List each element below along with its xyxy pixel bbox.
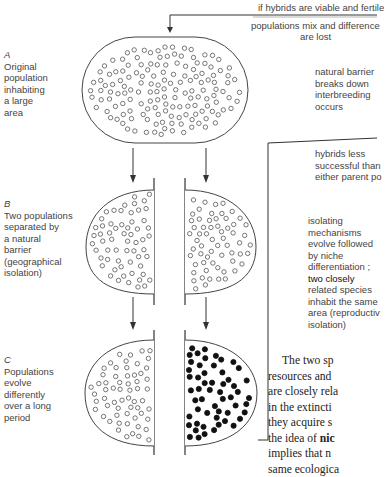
stage-c-line: over a long — [4, 400, 54, 412]
annotation-line: occurs — [315, 101, 374, 113]
stage-b-line: separated by — [4, 221, 73, 233]
annotation-top-condition: if hybrids are viable and fertile — [258, 2, 384, 14]
annotation-line: hybrids less — [315, 148, 382, 160]
body-prose: The two sp resources and are closely rel… — [268, 353, 388, 477]
annotation-mix-line1: populations mix and difference — [251, 20, 380, 32]
arrow-down-icon — [130, 322, 136, 330]
annotation-barrier: natural barrier breaks down interbreedin… — [315, 66, 374, 112]
stage-b-line: (geographical — [4, 256, 73, 268]
annotation-line: breaks down — [315, 78, 374, 90]
stage-b-line: Two populations — [4, 210, 73, 222]
annotation-line: isolation) — [308, 319, 380, 331]
stage-c-letter: C — [4, 354, 54, 366]
arrow-head-icon — [167, 27, 173, 33]
stage-c-label: C Populations evolve differently over a … — [4, 354, 54, 423]
stage-a-line: a large — [4, 95, 48, 107]
prose-line: they acquire s — [268, 415, 388, 431]
prose-line: implies that n — [268, 446, 388, 462]
arrow-down-icon — [203, 322, 209, 330]
annotation-line: isolating — [308, 215, 380, 227]
prose-line: The two sp — [268, 353, 388, 369]
stage-a-line: Original — [4, 61, 48, 73]
annotation-line: interbreeding — [315, 89, 374, 101]
prose-text: the idea of — [268, 432, 320, 445]
stage-a-letter: A — [4, 49, 48, 61]
annotation-hybrids: hybrids less successful than either pare… — [315, 148, 382, 183]
annotation-line: differentiation ; — [308, 261, 380, 273]
annotation-line: natural barrier — [315, 66, 374, 78]
stage-c-line: differently — [4, 389, 54, 401]
annotation-line: related species — [308, 284, 380, 296]
prose-line: are closely rela — [268, 384, 388, 400]
prose-line: in the extincti — [268, 400, 388, 416]
arrow-down-icon — [130, 175, 136, 183]
stage-b-line: barrier — [4, 244, 73, 256]
annotation-line: by niche — [308, 250, 380, 262]
annotation-isolating: isolating mechanisms evolve followed by … — [308, 215, 380, 330]
prose-bold-term: nic — [320, 432, 335, 445]
stage-b-letter: B — [4, 198, 73, 210]
stage-a-line: population — [4, 72, 48, 84]
stage-b-label: B Two populations separated by a natural… — [4, 198, 73, 279]
stage-a-label: A Original population inhabiting a large… — [4, 49, 48, 118]
prose-line: same ecologica — [268, 462, 388, 477]
stage-c-line: evolve — [4, 377, 54, 389]
stage-c-line: Populations — [4, 366, 54, 378]
annotation-line: area (reproductiv — [308, 307, 380, 319]
annotation-line: mechanisms — [308, 227, 380, 239]
prose-line: the idea of nic — [268, 431, 388, 447]
annotation-line: either parent po — [315, 171, 382, 183]
prose-line: resources and — [268, 369, 388, 385]
arrow-down-icon — [203, 175, 209, 183]
stage-b-line: isolation) — [4, 267, 73, 279]
stage-a-line: area — [4, 107, 48, 119]
annotation-line-emphasis: two closely — [308, 273, 380, 285]
stage-b-line: a natural — [4, 233, 73, 245]
stage-c-line: period — [4, 412, 54, 424]
annotation-line: evolve followed — [308, 238, 380, 250]
annotation-line: inhabit the same — [308, 296, 380, 308]
annotation-mix-line2: are lost — [300, 31, 331, 43]
annotation-line: successful than — [315, 160, 382, 172]
stage-a-line: inhabiting — [4, 84, 48, 96]
